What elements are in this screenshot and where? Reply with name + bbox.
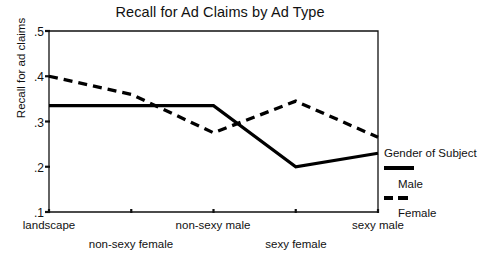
legend-label-male: Male — [398, 178, 423, 190]
legend-swatch-female — [384, 196, 414, 200]
series-line-male — [49, 106, 378, 167]
legend-swatch-male — [384, 166, 414, 170]
axis-frame — [49, 31, 378, 212]
legend-title: Gender of Subject — [384, 147, 477, 159]
chart-figure: Recall for Ad Claims by Ad Type Recall f… — [0, 0, 499, 267]
plot-area — [0, 0, 499, 267]
legend-label-female: Female — [398, 207, 436, 219]
